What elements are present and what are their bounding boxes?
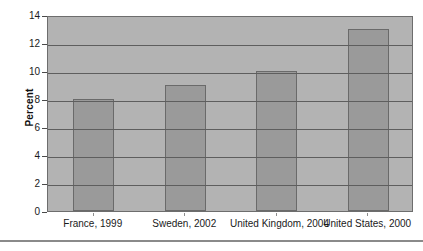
gridline xyxy=(48,129,412,130)
y-tick-label: 12 xyxy=(29,37,40,50)
gridline xyxy=(48,45,412,46)
bar xyxy=(73,99,114,211)
bar-chart-figure: Percent 02468101214 France, 1999Sweden, … xyxy=(0,0,423,251)
gridline xyxy=(48,73,412,74)
y-tick-label: 2 xyxy=(34,177,40,190)
plot-area xyxy=(47,16,413,212)
y-axis-title: Percent xyxy=(24,78,35,138)
y-tick-label: 0 xyxy=(34,205,40,218)
x-tick-label: Sweden, 2002 xyxy=(139,218,231,229)
bar xyxy=(348,29,389,211)
y-tick-label: 6 xyxy=(34,121,40,134)
bar xyxy=(256,71,297,211)
bar-series xyxy=(48,17,412,211)
gridline xyxy=(48,185,412,186)
y-tick-label: 10 xyxy=(29,65,40,78)
y-tick-label: 14 xyxy=(29,9,40,22)
x-tick-mark xyxy=(184,213,185,216)
bottom-divider xyxy=(0,240,423,242)
x-tick-label: United Kingdom, 2004 xyxy=(230,218,322,229)
x-tick-label: United States, 2000 xyxy=(322,218,414,229)
x-tick-mark xyxy=(276,213,277,216)
bar xyxy=(165,85,206,211)
x-tick-label: France, 1999 xyxy=(47,218,139,229)
y-tick-label: 8 xyxy=(34,93,40,106)
gridline xyxy=(48,101,412,102)
y-tick-label: 4 xyxy=(34,149,40,162)
x-tick-mark xyxy=(93,213,94,216)
y-axis: Percent 02468101214 xyxy=(0,16,47,212)
x-tick-mark xyxy=(367,213,368,216)
x-axis: France, 1999Sweden, 2002United Kingdom, … xyxy=(47,213,413,235)
gridline xyxy=(48,157,412,158)
